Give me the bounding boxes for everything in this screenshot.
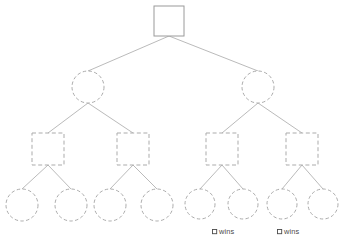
win-label-1-text: wins (218, 227, 234, 236)
edge-n2-m4 (258, 103, 302, 133)
node-circle-l4[interactable] (141, 189, 173, 221)
win-annotation-1: wins (213, 227, 235, 236)
edge-m3-l6 (222, 165, 243, 189)
level-1-group (72, 71, 274, 103)
node-circle-l6[interactable] (228, 189, 258, 219)
edge-m4-l7 (282, 165, 302, 189)
edge-n1-m1 (48, 103, 88, 133)
node-square-m4[interactable] (286, 133, 318, 165)
level-2-group (32, 133, 318, 165)
node-circle-l3[interactable] (94, 189, 126, 221)
edge-n1-m2 (88, 103, 133, 133)
edge-group (22, 36, 323, 189)
node-square-m2[interactable] (117, 133, 149, 165)
node-square-m1[interactable] (32, 133, 64, 165)
level-0-group (154, 6, 184, 36)
node-circle-l1[interactable] (6, 189, 38, 221)
square-glyph-icon (278, 230, 282, 234)
node-circle-l5[interactable] (185, 189, 215, 219)
edge-m4-l8 (302, 165, 323, 189)
edge-root-n1 (88, 36, 169, 71)
node-circle-l2[interactable] (55, 189, 87, 221)
node-square-m3[interactable] (206, 133, 238, 165)
node-circle-n2[interactable] (242, 71, 274, 103)
edge-n2-m3 (222, 103, 258, 133)
edge-m2-l4 (133, 165, 157, 189)
win-label-2-text: wins (283, 227, 299, 236)
square-glyph-icon (213, 230, 217, 234)
node-circle-l8[interactable] (308, 189, 338, 219)
edge-m3-l5 (200, 165, 222, 189)
game-tree-diagram: wins wins (0, 0, 348, 243)
tree-canvas: wins wins (0, 0, 348, 243)
annotation-group: wins wins (213, 227, 300, 236)
win-annotation-2: wins (278, 227, 300, 236)
level-3-group (6, 189, 338, 221)
edge-m1-l2 (48, 165, 71, 189)
node-circle-l7[interactable] (267, 189, 297, 219)
edge-m2-l3 (110, 165, 133, 189)
edge-root-n2 (169, 36, 258, 71)
edge-m1-l1 (22, 165, 48, 189)
node-root-square[interactable] (154, 6, 184, 36)
node-circle-n1[interactable] (72, 71, 104, 103)
